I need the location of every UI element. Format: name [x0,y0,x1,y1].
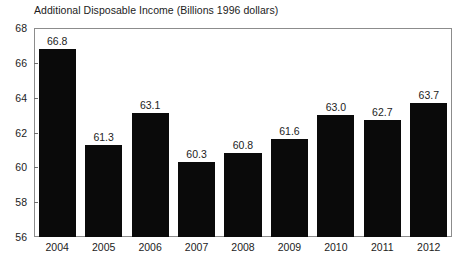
bar-value-label: 61.3 [80,132,126,143]
bar [271,139,308,237]
chart-title: Additional Disposable Income (Billions 1… [34,4,278,17]
y-tick-label: 68 [15,23,27,34]
y-tick-label: 62 [15,128,27,139]
x-axis: 200420052006200720082009201020112012 [34,241,452,259]
y-axis: 68666462605856 [0,0,34,266]
bar-value-label: 63.7 [406,90,452,101]
y-tick-label: 58 [15,197,27,208]
bar [224,153,261,237]
bar-chart: Additional Disposable Income (Billions 1… [0,0,469,266]
x-tick-label: 2007 [173,241,219,253]
x-tick-label: 2009 [266,241,312,253]
bar [364,120,401,237]
x-tick-label: 2004 [34,241,80,253]
bar-value-label: 66.8 [34,36,80,47]
x-tick-label: 2012 [406,241,452,253]
bar [317,115,354,237]
bars-layer: 66.861.363.160.360.861.663.062.763.7 [34,28,452,237]
x-tick-label: 2011 [359,241,405,253]
bar [178,162,215,237]
bar [132,113,169,237]
bar-value-label: 61.6 [266,126,312,137]
y-tick-label: 60 [15,162,27,173]
bar [85,145,122,237]
y-tick-label: 66 [15,58,27,69]
bar-value-label: 63.0 [313,102,359,113]
y-tick-label: 56 [15,232,27,243]
bar-value-label: 62.7 [359,107,405,118]
y-tick-label: 64 [15,93,27,104]
x-tick-label: 2008 [220,241,266,253]
bar [39,49,76,237]
x-tick-label: 2006 [127,241,173,253]
bar [410,103,447,237]
bar-value-label: 60.8 [220,140,266,151]
x-tick-label: 2010 [313,241,359,253]
x-tick-label: 2005 [80,241,126,253]
bar-value-label: 60.3 [173,149,219,160]
bar-value-label: 63.1 [127,100,173,111]
